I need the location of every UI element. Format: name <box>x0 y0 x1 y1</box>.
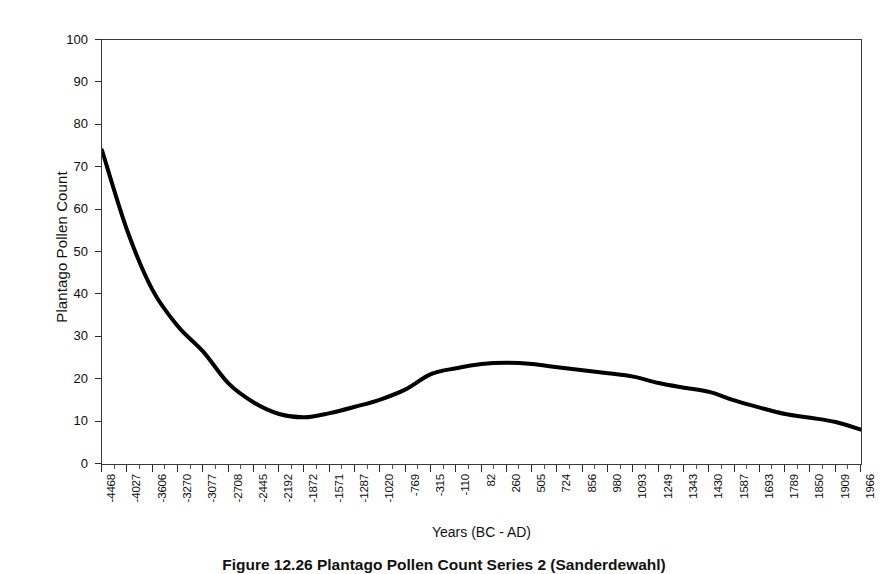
x-tick-mark-minor <box>240 465 241 469</box>
figure-caption: Figure 12.26 Plantago Pollen Count Serie… <box>0 556 888 574</box>
x-tick-label: 1093 <box>637 474 649 499</box>
x-tick-mark <box>202 465 203 472</box>
x-tick-mark-minor <box>847 465 848 469</box>
y-tick-label: 10 <box>74 414 88 427</box>
x-tick-label: 1249 <box>663 474 675 499</box>
x-tick-label: 724 <box>561 474 573 493</box>
x-tick-mark <box>531 465 532 472</box>
x-tick-label: 1587 <box>739 474 751 499</box>
x-tick-mark <box>708 465 709 472</box>
x-tick-mark-minor <box>721 465 722 469</box>
x-tick-label: 1789 <box>789 474 801 499</box>
x-tick-mark <box>379 465 380 472</box>
y-tick-label: 0 <box>81 457 88 470</box>
x-tick-mark <box>658 465 659 472</box>
x-tick-label: -1287 <box>359 474 371 502</box>
x-tick-mark-minor <box>164 465 165 469</box>
y-tick-label: 80 <box>74 117 88 130</box>
x-tick-mark-minor <box>620 465 621 469</box>
x-tick-mark <box>683 465 684 472</box>
x-tick-mark <box>784 465 785 472</box>
x-tick-mark-minor <box>670 465 671 469</box>
y-tick-label: 50 <box>74 245 88 258</box>
x-tick-label: 980 <box>612 474 624 493</box>
x-tick-label: -2445 <box>258 474 270 502</box>
y-tick-label: 60 <box>74 202 88 215</box>
y-tick-label: 30 <box>74 329 88 342</box>
x-tick-mark <box>759 465 760 472</box>
x-tick-mark-minor <box>139 465 140 469</box>
x-tick-mark-minor <box>215 465 216 469</box>
x-tick-mark <box>152 465 153 472</box>
y-tick-label: 40 <box>74 287 88 300</box>
x-tick-label: -1020 <box>384 474 396 502</box>
plot-area <box>101 39 862 465</box>
x-tick-mark-minor <box>316 465 317 469</box>
x-tick-mark-minor <box>544 465 545 469</box>
x-tick-mark <box>632 465 633 472</box>
series-line-plantago <box>102 150 861 429</box>
x-tick-label: -1571 <box>334 474 346 502</box>
x-tick-mark-minor <box>822 465 823 469</box>
x-tick-mark <box>481 465 482 472</box>
x-tick-mark-minor <box>645 465 646 469</box>
x-tick-label: 260 <box>511 474 523 493</box>
x-tick-mark-minor <box>291 465 292 469</box>
x-tick-mark <box>734 465 735 472</box>
x-tick-label: 82 <box>486 474 498 486</box>
x-tick-label: 1966 <box>865 474 877 499</box>
x-tick-label: -2708 <box>233 474 245 502</box>
x-axis-title: Years (BC - AD) <box>101 524 862 540</box>
x-tick-label: -769 <box>410 474 422 496</box>
pollen-count-line-chart <box>102 40 861 464</box>
x-tick-label: -2192 <box>283 474 295 502</box>
x-tick-label: -4027 <box>131 474 143 502</box>
x-tick-mark <box>101 465 102 472</box>
x-tick-mark <box>582 465 583 472</box>
x-tick-mark <box>177 465 178 472</box>
y-tick-label: 90 <box>74 75 88 88</box>
x-tick-mark-minor <box>190 465 191 469</box>
x-tick-mark-minor <box>569 465 570 469</box>
x-tick-mark <box>430 465 431 472</box>
x-tick-mark <box>329 465 330 472</box>
x-tick-mark <box>556 465 557 472</box>
y-tick-label: 100 <box>66 33 88 46</box>
x-tick-mark <box>278 465 279 472</box>
x-tick-mark-minor <box>341 465 342 469</box>
x-tick-label: -4468 <box>106 474 118 502</box>
x-tick-mark <box>506 465 507 472</box>
x-tick-mark-minor <box>443 465 444 469</box>
x-tick-label: -3606 <box>157 474 169 502</box>
x-tick-mark-minor <box>468 465 469 469</box>
x-tick-label: 856 <box>587 474 599 493</box>
x-tick-label: 505 <box>536 474 548 493</box>
x-tick-mark-minor <box>594 465 595 469</box>
y-axis-tick-labels: 1009080706050403020100 <box>0 0 97 572</box>
x-tick-label: 1343 <box>688 474 700 499</box>
x-tick-label: -3270 <box>182 474 194 502</box>
x-tick-mark-minor <box>493 465 494 469</box>
x-tick-mark <box>303 465 304 472</box>
x-tick-mark <box>405 465 406 472</box>
x-tick-mark <box>860 465 861 472</box>
y-tick-label: 20 <box>74 372 88 385</box>
x-tick-mark-minor <box>696 465 697 469</box>
x-tick-label: -3077 <box>207 474 219 502</box>
x-tick-label: 1909 <box>840 474 852 499</box>
x-axis-tick-labels: -4468-4027-3606-3270-3077-2708-2445-2192… <box>101 474 862 520</box>
y-tick-label: 70 <box>74 160 88 173</box>
x-tick-mark <box>354 465 355 472</box>
x-tick-mark <box>455 465 456 472</box>
x-tick-mark-minor <box>771 465 772 469</box>
x-tick-mark-minor <box>417 465 418 469</box>
x-tick-label: 1430 <box>713 474 725 499</box>
x-tick-mark <box>253 465 254 472</box>
x-tick-mark-minor <box>114 465 115 469</box>
x-tick-mark <box>835 465 836 472</box>
x-tick-label: 1850 <box>814 474 826 499</box>
x-tick-mark-minor <box>367 465 368 469</box>
x-tick-label: -315 <box>435 474 447 496</box>
x-tick-mark-minor <box>746 465 747 469</box>
x-tick-label: -1872 <box>308 474 320 502</box>
